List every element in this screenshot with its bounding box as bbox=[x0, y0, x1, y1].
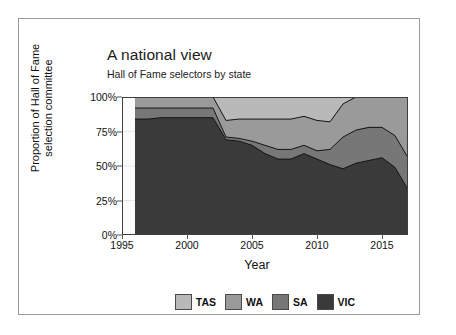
y-axis-tick-50pct: 50% bbox=[71, 160, 117, 172]
plot-area bbox=[122, 97, 408, 235]
legend-item-tas[interactable]: TAS bbox=[175, 294, 216, 310]
chart-title: A national view bbox=[107, 46, 212, 64]
y-axis-title-line2: selection committee bbox=[42, 59, 54, 156]
legend-swatch-vic bbox=[317, 294, 334, 310]
plot-frame bbox=[122, 97, 408, 235]
legend-label-sa: SA bbox=[293, 296, 308, 308]
y-axis-tick-100pct: 100% bbox=[71, 91, 117, 103]
x-axis-tick-2010: 2010 bbox=[305, 239, 328, 251]
y-axis-tick-labels: 0%25%50%75%100% bbox=[69, 97, 117, 235]
legend-label-wa: WA bbox=[246, 296, 263, 308]
legend-item-sa[interactable]: SA bbox=[272, 294, 308, 310]
x-axis-tick-mark bbox=[252, 234, 253, 239]
x-axis-tick-labels: 19952000200520102015 bbox=[122, 239, 408, 255]
x-axis-tick-2000: 2000 bbox=[175, 239, 198, 251]
y-axis-title-line1: Proportion of Hall of Fame bbox=[29, 44, 41, 172]
x-axis-tick-mark bbox=[317, 234, 318, 239]
y-axis-tick-75pct: 75% bbox=[71, 126, 117, 138]
y-axis-title: Proportion of Hall of Fame selection com… bbox=[25, 33, 59, 183]
legend-swatch-sa bbox=[272, 294, 289, 310]
x-axis-tick-mark bbox=[187, 234, 188, 239]
legend-swatch-wa bbox=[225, 294, 242, 310]
x-axis-tick-1995: 1995 bbox=[110, 239, 133, 251]
chart-legend: TASWASAVIC bbox=[122, 294, 408, 310]
x-axis-tick-2005: 2005 bbox=[240, 239, 263, 251]
x-axis-tick-2015: 2015 bbox=[370, 239, 393, 251]
chart-subtitle: Hall of Fame selectors by state bbox=[107, 68, 251, 80]
legend-label-vic: VIC bbox=[338, 296, 356, 308]
y-axis-tick-25pct: 25% bbox=[71, 195, 117, 207]
legend-item-wa[interactable]: WA bbox=[225, 294, 263, 310]
legend-item-vic[interactable]: VIC bbox=[317, 294, 356, 310]
x-axis-tick-mark bbox=[122, 234, 123, 239]
x-axis-title: Year bbox=[122, 258, 392, 272]
chart-card: A national view Hall of Fame selectors b… bbox=[18, 18, 420, 315]
legend-swatch-tas bbox=[175, 294, 192, 310]
legend-label-tas: TAS bbox=[196, 296, 216, 308]
x-axis-tick-mark bbox=[382, 234, 383, 239]
